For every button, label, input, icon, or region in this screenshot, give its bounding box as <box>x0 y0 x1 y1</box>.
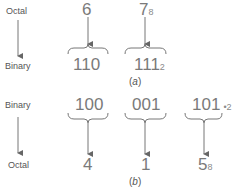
octal-digit-b-0: 4 <box>83 156 92 173</box>
caption-b: (b) <box>129 176 141 187</box>
caption-a: (a) <box>129 76 141 87</box>
to-label-b: Octal <box>8 160 29 170</box>
octal-digit-a-0: 6 <box>82 1 91 18</box>
binary-group-b-0: 100 <box>75 96 103 113</box>
octal-digit-a-1: 78 <box>139 1 153 18</box>
binary-group-a-1: 1112 <box>134 56 165 73</box>
to-label-a: Binary <box>5 61 31 71</box>
binary-group-b-2: 101•2 <box>192 96 232 113</box>
from-label-b: Binary <box>5 100 31 110</box>
binary-group-a-0: 110 <box>73 56 100 73</box>
from-label-a: Octal <box>6 6 27 16</box>
binary-group-b-1: 001 <box>132 96 160 113</box>
octal-digit-b-2: 58 <box>198 156 212 173</box>
octal-digit-b-1: 1 <box>141 156 150 173</box>
